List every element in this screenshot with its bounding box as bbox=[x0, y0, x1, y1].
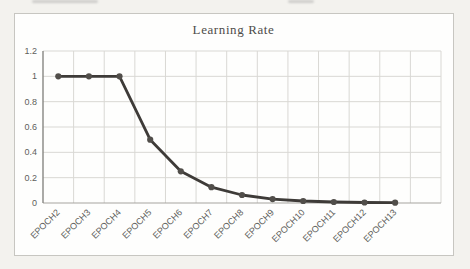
plot-area: 00.20.40.60.811.2EPOCH2EPOCH3EPOCH4EPOCH… bbox=[0, 0, 470, 269]
y-axis-tick-label: 1 bbox=[32, 71, 37, 81]
x-axis-label-epoch4: EPOCH4 bbox=[90, 207, 123, 240]
page-background: Learning Rate 00.20.40.60.811.2EPOCH2EPO… bbox=[0, 0, 470, 269]
data-point-epoch7 bbox=[208, 184, 214, 190]
x-axis-label-epoch5: EPOCH5 bbox=[120, 207, 153, 240]
x-axis-label-epoch10: EPOCH10 bbox=[270, 207, 307, 244]
y-axis-tick-label: 0.6 bbox=[24, 122, 37, 132]
data-point-epoch6 bbox=[178, 168, 184, 174]
x-axis-label-epoch3: EPOCH3 bbox=[59, 207, 92, 240]
y-axis-tick-label: 1.2 bbox=[24, 46, 37, 56]
data-point-epoch4 bbox=[116, 73, 122, 79]
data-point-epoch10 bbox=[300, 198, 306, 204]
x-axis-label-epoch7: EPOCH7 bbox=[182, 207, 215, 240]
data-point-epoch2 bbox=[55, 73, 61, 79]
data-point-epoch9 bbox=[270, 196, 276, 202]
data-point-epoch11 bbox=[331, 199, 337, 205]
y-axis-tick-label: 0.8 bbox=[24, 97, 37, 107]
y-axis-tick-label: 0.2 bbox=[24, 173, 37, 183]
y-axis-tick-label: 0 bbox=[32, 198, 37, 208]
x-axis-label-epoch8: EPOCH8 bbox=[212, 207, 245, 240]
data-point-epoch8 bbox=[239, 192, 245, 198]
x-axis-label-epoch13: EPOCH13 bbox=[362, 207, 399, 244]
data-point-epoch5 bbox=[147, 137, 153, 143]
x-axis-label-epoch6: EPOCH6 bbox=[151, 207, 184, 240]
data-point-epoch13 bbox=[392, 200, 398, 206]
data-point-epoch12 bbox=[361, 199, 367, 205]
data-point-epoch3 bbox=[86, 73, 92, 79]
x-axis-label-epoch2: EPOCH2 bbox=[28, 207, 61, 240]
y-axis-tick-label: 0.4 bbox=[24, 147, 37, 157]
